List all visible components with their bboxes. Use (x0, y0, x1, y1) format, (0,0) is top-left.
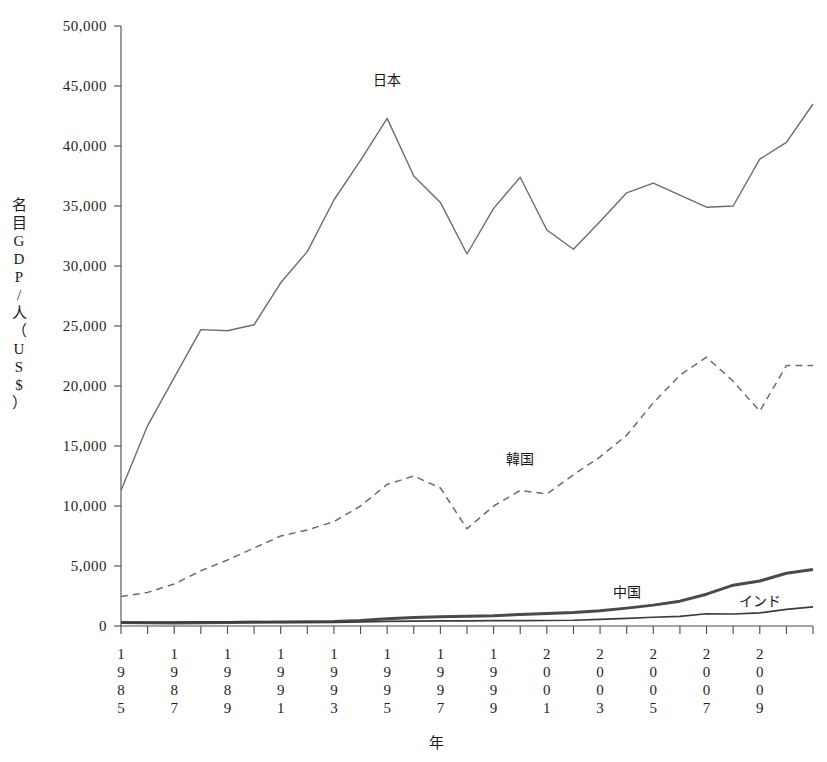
y-axis-tick-label: 20,000 (63, 378, 107, 394)
y-axis-title: 名目GDP/人（US$） (6, 196, 32, 412)
series-label-group: 日本韓国中国インド (373, 72, 781, 609)
line-chart-plot: 05,00010,00015,00020,00025,00030,00035,0… (0, 0, 827, 762)
series-line-中国 (121, 570, 813, 623)
series-label-韓国: 韓国 (506, 451, 534, 467)
series-line-日本 (121, 104, 813, 490)
x-axis-tick-group (121, 626, 813, 634)
series-label-中国: 中国 (613, 584, 641, 600)
series-label-日本: 日本 (373, 72, 401, 88)
y-axis-tick-label: 0 (99, 618, 107, 634)
y-axis-tick-label: 45,000 (63, 78, 107, 94)
x-axis-title: 年 (429, 731, 444, 752)
y-axis-tick-label: 5,000 (71, 558, 107, 574)
y-axis-tick-group: 05,00010,00015,00020,00025,00030,00035,0… (63, 18, 121, 634)
y-axis-tick-label: 15,000 (63, 438, 107, 454)
y-axis-tick-label: 10,000 (63, 498, 107, 514)
y-axis-tick-label: 50,000 (63, 18, 107, 34)
y-axis-tick-label: 30,000 (63, 258, 107, 274)
chart-container: 05,00010,00015,00020,00025,00030,00035,0… (0, 0, 827, 762)
y-axis-tick-label: 35,000 (63, 198, 107, 214)
series-line-韓国 (121, 357, 813, 596)
y-axis-tick-label: 40,000 (63, 138, 107, 154)
series-label-インド: インド (739, 593, 781, 609)
data-series-group (121, 104, 813, 623)
y-axis-tick-label: 25,000 (63, 318, 107, 334)
